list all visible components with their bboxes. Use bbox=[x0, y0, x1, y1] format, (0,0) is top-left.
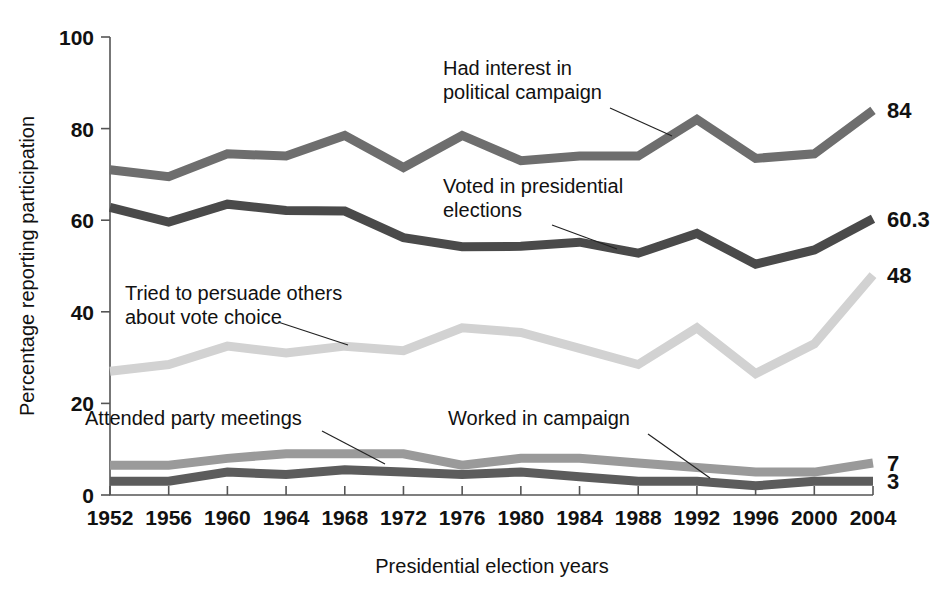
x-tick-label: 1972 bbox=[380, 506, 427, 529]
series-annotation-label: Voted in presidentialelections bbox=[443, 175, 623, 221]
y-axis-title: Percentage reporting participation bbox=[16, 116, 38, 416]
series-end-values: 8460.34873 bbox=[887, 98, 930, 494]
annotation-leader-line bbox=[322, 431, 385, 464]
x-tick-label: 1960 bbox=[204, 506, 251, 529]
series-annotation-label: Had interest inpolitical campaign bbox=[443, 57, 602, 103]
annotation-line: Had interest in bbox=[443, 57, 572, 79]
annotation-line: Tried to persuade others bbox=[125, 282, 342, 304]
annotation-leader-line bbox=[610, 108, 672, 136]
y-tick-label: 80 bbox=[71, 118, 94, 141]
y-tick-label: 40 bbox=[71, 301, 94, 324]
x-tick-label: 1988 bbox=[615, 506, 662, 529]
x-tick-label: 2004 bbox=[850, 506, 897, 529]
x-axis-ticks: 1952195619601964196819721976198019841988… bbox=[87, 486, 897, 529]
x-tick-label: 1956 bbox=[145, 506, 192, 529]
series-annotation-label: Tried to persuade othersabout vote choic… bbox=[125, 282, 342, 328]
annotation-leader-line bbox=[278, 322, 348, 345]
x-axis-title: Presidential election years bbox=[375, 555, 608, 577]
annotation-line: Voted in presidential bbox=[443, 175, 623, 197]
chart-page: 020406080100 195219561960196419681972197… bbox=[0, 0, 937, 615]
x-tick-label: 1964 bbox=[263, 506, 310, 529]
annotation-line: elections bbox=[443, 199, 522, 221]
x-tick-label: 1980 bbox=[497, 506, 544, 529]
x-tick-label: 1992 bbox=[674, 506, 721, 529]
y-tick-label: 0 bbox=[82, 484, 94, 507]
annotation-line: political campaign bbox=[443, 81, 602, 103]
y-tick-label: 100 bbox=[59, 26, 94, 49]
series-end-value: 48 bbox=[887, 263, 911, 288]
series-annotations: Had interest inpolitical campaignVoted i… bbox=[85, 57, 710, 478]
series-line bbox=[110, 110, 873, 176]
y-axis-ticks: 020406080100 bbox=[59, 26, 110, 507]
series-end-value: 84 bbox=[887, 98, 912, 123]
annotation-line: Worked in campaign bbox=[448, 407, 630, 429]
series-end-value: 3 bbox=[887, 469, 899, 494]
x-tick-label: 2000 bbox=[791, 506, 838, 529]
series-annotation-label: Attended party meetings bbox=[85, 407, 302, 429]
annotation-line: about vote choice bbox=[125, 306, 282, 328]
x-tick-label: 1968 bbox=[321, 506, 368, 529]
participation-line-chart: 020406080100 195219561960196419681972197… bbox=[0, 0, 937, 615]
x-tick-label: 1984 bbox=[556, 506, 603, 529]
series-end-value: 60.3 bbox=[887, 207, 930, 232]
annotation-leader-line bbox=[648, 434, 710, 478]
y-tick-label: 60 bbox=[71, 209, 94, 232]
annotation-line: Attended party meetings bbox=[85, 407, 302, 429]
series-annotation-label: Worked in campaign bbox=[448, 407, 630, 429]
x-tick-label: 1952 bbox=[87, 506, 134, 529]
x-tick-label: 1976 bbox=[439, 506, 486, 529]
x-tick-label: 1996 bbox=[732, 506, 779, 529]
